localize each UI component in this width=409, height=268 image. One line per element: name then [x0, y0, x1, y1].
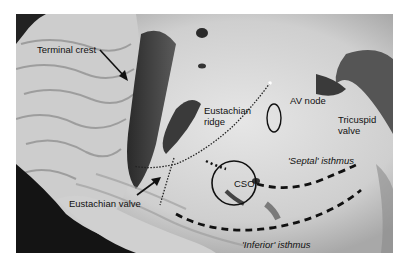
inferior-isthmus-label: 'Inferior' isthmus — [242, 239, 311, 250]
av-node-label: AV node — [290, 95, 326, 106]
tricuspid-valve-label-line1: Tricuspid — [338, 114, 376, 125]
septal-isthmus-label: 'Septal' isthmus — [288, 155, 354, 166]
cso-label: CSO — [234, 178, 255, 189]
eustachian-ridge-label-line2: ridge — [204, 116, 225, 127]
terminal-crest-label: Terminal crest — [37, 44, 96, 55]
eustachian-ridge-label-line1: Eustachian — [204, 105, 251, 116]
anatomical-photo-figure: Terminal crest Eustachian ridge AV node … — [16, 14, 393, 253]
tricuspid-valve-label-line2: valve — [338, 125, 360, 136]
eustachian-valve-label: Eustachian valve — [69, 198, 141, 209]
